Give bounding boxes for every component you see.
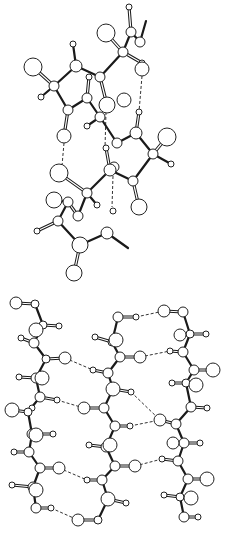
- atom: [109, 333, 123, 347]
- atom: [35, 371, 49, 385]
- atom: [31, 503, 41, 513]
- atom: [183, 474, 193, 484]
- atom: [103, 368, 113, 378]
- atom: [129, 460, 141, 472]
- atom: [128, 389, 134, 395]
- atom: [11, 449, 17, 455]
- atom: [73, 211, 83, 221]
- atom: [123, 500, 129, 506]
- hydrogen-bond: [112, 176, 113, 207]
- atom: [161, 492, 167, 498]
- atom: [179, 512, 189, 522]
- atom: [171, 419, 181, 429]
- atom: [134, 351, 146, 363]
- atom: [158, 305, 170, 317]
- atom: [133, 314, 139, 320]
- atom: [103, 438, 117, 452]
- atom: [94, 516, 102, 524]
- atom: [38, 94, 44, 100]
- atom: [70, 41, 76, 47]
- atom: [159, 456, 165, 462]
- atom: [59, 352, 71, 364]
- atom: [184, 491, 198, 505]
- atom: [115, 352, 125, 362]
- atom: [50, 164, 68, 182]
- atom: [204, 405, 210, 411]
- atom: [126, 27, 136, 37]
- atom: [178, 307, 188, 317]
- atom: [176, 493, 184, 501]
- atom: [158, 128, 176, 146]
- atom: [189, 365, 199, 375]
- atom: [186, 330, 194, 338]
- atom: [94, 202, 100, 208]
- atom: [103, 145, 109, 151]
- atom: [46, 192, 62, 208]
- atom: [173, 456, 183, 466]
- atom: [135, 62, 149, 76]
- atom: [203, 331, 209, 337]
- atom: [24, 447, 34, 457]
- atom: [195, 514, 201, 520]
- atom: [186, 402, 196, 412]
- atom: [104, 164, 116, 176]
- atom: [95, 112, 105, 122]
- atom: [34, 228, 40, 234]
- beta-sheet-panel: [5, 297, 220, 526]
- atom: [110, 461, 120, 471]
- helix-atoms: [24, 4, 176, 281]
- atom: [106, 382, 120, 396]
- atom: [167, 348, 173, 354]
- atom: [95, 72, 105, 82]
- atom: [167, 437, 179, 449]
- atom: [29, 483, 43, 497]
- atom: [101, 227, 113, 239]
- atom: [131, 199, 147, 215]
- atom: [18, 335, 24, 341]
- atom: [90, 367, 96, 373]
- atom: [63, 197, 73, 207]
- protein-structure-figure: [0, 0, 230, 537]
- atom: [9, 482, 15, 488]
- atom: [189, 378, 203, 392]
- atom: [117, 93, 131, 107]
- atom: [24, 408, 32, 416]
- atom: [97, 24, 115, 42]
- atom: [168, 161, 174, 167]
- atom: [206, 363, 220, 377]
- atom: [110, 208, 116, 214]
- atom: [54, 397, 60, 403]
- atom: [57, 129, 71, 143]
- atom: [35, 392, 45, 402]
- atom: [135, 37, 145, 47]
- atom: [84, 123, 90, 129]
- atom: [82, 188, 92, 198]
- atom: [136, 109, 142, 115]
- atom: [130, 127, 142, 139]
- atom: [97, 475, 107, 485]
- atom: [99, 97, 115, 113]
- atom: [148, 149, 158, 159]
- atom: [200, 472, 214, 486]
- atom: [112, 138, 122, 148]
- atom: [10, 297, 22, 309]
- atom: [178, 347, 188, 357]
- atom: [66, 265, 82, 281]
- atom: [31, 300, 39, 308]
- atom: [49, 81, 59, 91]
- figure-canvas: [0, 0, 230, 537]
- atom: [86, 442, 92, 448]
- atom: [99, 403, 109, 413]
- atom: [78, 402, 90, 414]
- atom: [101, 492, 115, 506]
- atom: [92, 334, 98, 340]
- atom: [29, 338, 39, 348]
- atom: [84, 477, 90, 483]
- atom: [63, 105, 73, 115]
- atom: [72, 514, 84, 526]
- atom: [5, 403, 19, 417]
- atom: [72, 237, 88, 253]
- atom: [53, 216, 63, 226]
- atom: [35, 463, 45, 473]
- atom: [154, 414, 166, 426]
